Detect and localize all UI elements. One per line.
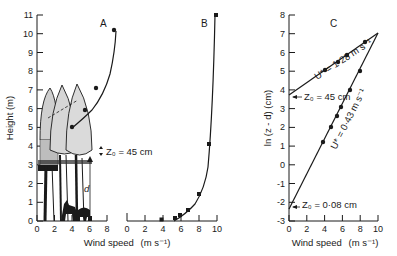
svg-text:8: 8 (104, 224, 109, 234)
c-z0-upper-annotation: Z₀ = 45 cm (292, 91, 351, 102)
tree-illustration (38, 84, 92, 221)
c-x-axis-label: Wind speed (m s⁻¹) (292, 237, 379, 248)
svg-text:7: 7 (28, 85, 33, 95)
svg-text:1: 1 (28, 197, 33, 207)
svg-text:Z₀ = 45 cm: Z₀ = 45 cm (106, 146, 153, 157)
b-x-ticks (127, 213, 217, 221)
c-y-tick-labels: -3 -2 -1 0 1 2 3 4 5 6 7 8 (277, 10, 285, 226)
svg-text:10: 10 (23, 29, 33, 39)
svg-text:0: 0 (286, 224, 291, 234)
c-y-ticks (289, 15, 295, 221)
svg-text:-2: -2 (277, 197, 285, 207)
svg-text:6: 6 (28, 104, 33, 114)
svg-text:6: 6 (280, 48, 285, 58)
a-y-tick-labels: 0 1 2 3 4 5 6 7 8 9 10 11 (23, 10, 33, 226)
svg-text:Z₀ = 45 cm: Z₀ = 45 cm (304, 91, 351, 102)
svg-text:0: 0 (28, 216, 33, 226)
svg-text:-3: -3 (277, 216, 285, 226)
svg-text:5: 5 (28, 122, 33, 132)
svg-text:Z₀ = 0·08 cm: Z₀ = 0·08 cm (302, 199, 357, 210)
figure: 0 1 2 3 4 5 6 7 8 9 10 11 0 2 4 6 8 (0, 0, 397, 256)
svg-text:8: 8 (358, 224, 363, 234)
svg-text:2: 2 (28, 179, 33, 189)
svg-text:4: 4 (28, 141, 33, 151)
svg-text:4: 4 (322, 224, 327, 234)
c-z0-lower-annotation: Z₀ = 0·08 cm (292, 199, 357, 210)
svg-text:4: 4 (160, 224, 165, 234)
ab-x-axis-label: Wind speed (m s⁻¹) (84, 237, 171, 248)
a-x-ticks (37, 215, 107, 221)
svg-text:0: 0 (34, 224, 39, 234)
svg-text:0: 0 (280, 160, 285, 170)
svg-text:4: 4 (280, 85, 285, 95)
svg-text:1: 1 (280, 141, 285, 151)
a-y-axis-label: Height (m) (4, 96, 15, 140)
svg-text:11: 11 (24, 10, 33, 20)
svg-text:4: 4 (69, 224, 74, 234)
panel-a: 0 1 2 3 4 5 6 7 8 9 10 11 0 2 4 6 8 (4, 10, 153, 234)
b-x-tick-labels: 0 2 4 6 8 10 (124, 224, 222, 234)
svg-text:8: 8 (280, 10, 285, 20)
panel-b: 0 2 4 6 8 10 B (124, 13, 222, 234)
svg-text:7: 7 (280, 29, 285, 39)
svg-text:10: 10 (373, 224, 383, 234)
panel-c-label: C (330, 18, 337, 29)
d-label: d (84, 183, 90, 194)
svg-text:9: 9 (28, 48, 33, 58)
svg-text:2: 2 (52, 224, 57, 234)
svg-text:6: 6 (178, 224, 183, 234)
svg-text:6: 6 (87, 224, 92, 234)
svg-text:10: 10 (212, 224, 222, 234)
svg-text:3: 3 (28, 160, 33, 170)
svg-text:Wind speed (m s⁻¹): Wind speed (m s⁻¹) (84, 237, 171, 248)
c-y-axis-label: ln (z - d) (cm) (262, 90, 273, 146)
svg-text:8: 8 (196, 224, 201, 234)
svg-text:2: 2 (142, 224, 147, 234)
svg-text:-1: -1 (277, 179, 285, 189)
svg-text:2: 2 (280, 122, 285, 132)
c-x-ticks (289, 215, 378, 221)
panel-a-label: A (100, 18, 107, 29)
svg-text:0: 0 (124, 224, 129, 234)
svg-text:8: 8 (28, 66, 33, 76)
svg-text:6: 6 (340, 224, 345, 234)
svg-text:3: 3 (280, 104, 285, 114)
panel-b-label: B (201, 18, 208, 29)
z0-marker-a: Z₀ = 45 cm (99, 146, 153, 157)
b-data-points (160, 13, 219, 222)
svg-text:2: 2 (304, 224, 309, 234)
svg-text:5: 5 (280, 66, 285, 76)
c-x-tick-labels: 0 2 4 6 8 10 (286, 224, 383, 234)
a-x-tick-labels: 0 2 4 6 8 (34, 224, 109, 234)
b-profile-curve (174, 15, 215, 221)
panel-c: -3 -2 -1 0 1 2 3 4 5 6 7 8 0 2 4 6 8 (262, 10, 383, 248)
